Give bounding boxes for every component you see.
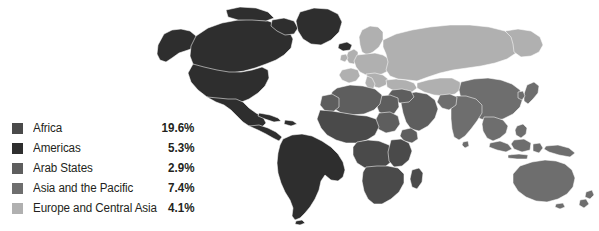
map-shape-central-america	[249, 125, 282, 141]
legend-value-arab-states: 2.9%	[167, 162, 194, 175]
map-shape-russia	[383, 25, 520, 81]
legend-label-europe-central-asia: Europe and Central Asia	[33, 202, 157, 215]
map-shape-hispaniola	[284, 120, 297, 126]
map-shape-southern-africa	[362, 166, 404, 204]
map-shape-sudan	[375, 112, 400, 133]
legend-label-africa: Africa	[33, 122, 62, 135]
legend-row-arab-states: Arab States 2.9%	[12, 158, 194, 178]
map-shape-canada-arctic	[226, 7, 274, 21]
map-shape-sumatra	[489, 141, 512, 152]
legend-value-africa: 19.6%	[161, 122, 194, 135]
legend: Africa 19.6% Americas 5.3% Arab States 2…	[12, 118, 194, 218]
legend-swatch-africa	[12, 123, 23, 134]
map-shape-mexico	[207, 97, 266, 128]
legend-value-americas: 5.3%	[167, 142, 194, 155]
legend-row-europe-central-asia: Europe and Central Asia 4.1%	[12, 198, 194, 218]
map-shape-philippines	[515, 124, 527, 138]
map-shape-west-africa	[317, 110, 379, 143]
map-shape-west-sahara	[320, 94, 339, 112]
map-region-asia-pacific	[437, 78, 594, 209]
map-shape-greenland	[296, 8, 342, 45]
legend-row-americas: Americas 5.3%	[12, 138, 194, 158]
map-shape-ireland	[340, 54, 348, 62]
map-shape-madagascar	[410, 168, 423, 189]
map-shape-sulawesi	[533, 143, 543, 153]
map-shape-new-zealand	[585, 190, 594, 199]
map-shape-central-africa	[353, 140, 394, 170]
map-shape-java	[508, 154, 528, 159]
map-shape-tierra-del-fuego	[295, 220, 305, 225]
map-shape-iberia	[339, 68, 360, 83]
map-shape-australia	[513, 160, 575, 202]
legend-swatch-arab-states	[12, 163, 23, 174]
legend-row-africa: Africa 19.6%	[12, 118, 194, 138]
legend-swatch-americas	[12, 143, 23, 154]
legend-row-asia-pacific: Asia and the Pacific 7.4%	[12, 178, 194, 198]
legend-swatch-asia-pacific	[12, 183, 23, 194]
map-shape-new-guinea	[544, 145, 575, 157]
legend-label-asia-pacific: Asia and the Pacific	[33, 182, 133, 195]
map-shape-east-africa	[388, 139, 412, 167]
legend-swatch-europe-central-asia	[12, 203, 23, 214]
map-shape-sri-lanka	[462, 141, 469, 148]
map-shape-southeast-asia	[482, 117, 508, 141]
map-shape-scandinavia	[359, 26, 383, 55]
map-shape-borneo	[511, 139, 531, 152]
map-shape-south-america	[277, 134, 345, 220]
map-shape-new-zealand-south	[579, 199, 589, 208]
map-shape-japan	[524, 82, 539, 104]
figure-root: Africa 19.6% Americas 5.3% Arab States 2…	[0, 0, 599, 231]
map-shape-iceland	[338, 42, 352, 51]
legend-label-americas: Americas	[33, 142, 81, 155]
legend-value-asia-pacific: 7.4%	[167, 182, 194, 195]
legend-label-arab-states: Arab States	[33, 162, 93, 175]
legend-value-europe-central-asia: 4.1%	[167, 202, 194, 215]
map-shape-western-europe	[354, 53, 391, 76]
map-shape-tasmania	[555, 203, 565, 209]
